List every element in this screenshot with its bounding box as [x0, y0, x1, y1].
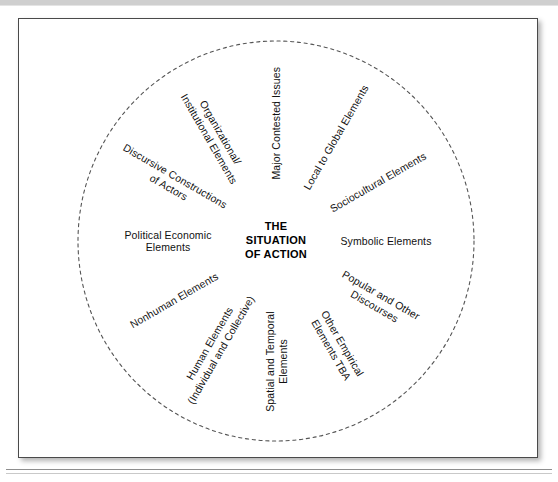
spoke-label-spatial-and-temporal-elements: Spatial and Temporal Elements — [264, 286, 289, 436]
spoke-label-political-economic-elements: Political Economic Elements — [93, 229, 243, 254]
bottom-rule — [6, 469, 552, 470]
figure-panel: THE SITUATION OF ACTION Major Contested … — [18, 18, 538, 458]
bottom-rule-secondary — [6, 473, 552, 474]
situational-map-diagram: THE SITUATION OF ACTION Major Contested … — [19, 19, 539, 459]
spoke-label-major-contested-issues: Major Contested Issues — [270, 48, 283, 198]
figure-root: THE SITUATION OF ACTION Major Contested … — [0, 0, 558, 482]
top-rule-hairline — [0, 5, 558, 6]
spoke-label-symbolic-elements: Symbolic Elements — [311, 235, 461, 248]
